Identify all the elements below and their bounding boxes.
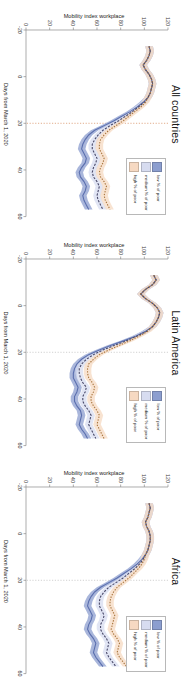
legend-swatch-high: [130, 162, 140, 172]
svg-text:0: 0: [17, 532, 23, 535]
mobility-figure: All countries -200204060020406080100120 …: [0, 0, 188, 686]
svg-text:80: 80: [118, 249, 124, 255]
legend: low % of poor medium % of poor high % of…: [126, 616, 166, 672]
svg-text:0: 0: [23, 252, 29, 255]
legend-swatch-high: [130, 391, 140, 401]
svg-text:20: 20: [47, 477, 53, 483]
svg-text:40: 40: [17, 167, 23, 173]
svg-text:20: 20: [47, 20, 53, 26]
legend-item-high: high % of poor: [130, 391, 140, 439]
rotated-figure-wrapper: All countries -200204060020406080100120 …: [0, 0, 188, 686]
x-axis-title: Days from March 1, 2020: [3, 457, 9, 686]
svg-text:60: 60: [17, 671, 23, 677]
svg-text:120: 120: [165, 474, 171, 483]
panel-africa: Africa -200204060020406080100120 Days fr…: [0, 457, 188, 686]
svg-text:60: 60: [17, 214, 23, 220]
svg-text:20: 20: [17, 577, 23, 583]
legend-swatch-medium: [141, 162, 151, 172]
legend-label-high: high % of poor: [132, 404, 136, 432]
svg-text:120: 120: [165, 246, 171, 255]
svg-text:40: 40: [70, 20, 76, 26]
svg-text:120: 120: [165, 17, 171, 26]
legend-swatch-low: [153, 162, 163, 172]
legend-item-medium: medium % of poor: [141, 162, 151, 210]
svg-text:40: 40: [17, 624, 23, 630]
svg-text:80: 80: [118, 477, 124, 483]
svg-text:-20: -20: [17, 483, 23, 491]
legend-item-low: low % of poor: [153, 620, 163, 668]
svg-text:40: 40: [70, 477, 76, 483]
legend-label-medium: medium % of poor: [144, 404, 148, 440]
y-axis-title: Mobility index workplace: [34, 470, 154, 476]
svg-text:0: 0: [23, 23, 29, 26]
legend-label-high: high % of poor: [132, 175, 136, 203]
svg-text:20: 20: [47, 249, 53, 255]
svg-text:40: 40: [17, 396, 23, 402]
y-axis-title: Mobility index workplace: [34, 13, 154, 19]
legend-item-low: low % of poor: [153, 391, 163, 439]
legend-label-low: low % of poor: [155, 404, 159, 431]
legend-swatch-medium: [141, 620, 151, 630]
legend-label-medium: medium % of poor: [144, 632, 148, 668]
y-axis-title: Mobility index workplace: [34, 242, 154, 248]
legend-item-high: high % of poor: [130, 620, 140, 668]
svg-text:-20: -20: [17, 255, 23, 263]
legend-item-high: high % of poor: [130, 162, 140, 210]
svg-text:60: 60: [94, 477, 100, 483]
legend: low % of poor medium % of poor high % of…: [126, 387, 166, 443]
legend-label-high: high % of poor: [132, 632, 136, 660]
legend-swatch-low: [153, 620, 163, 630]
x-axis-title: Days from March 1, 2020: [3, 229, 9, 458]
legend-item-low: low % of poor: [153, 162, 163, 210]
legend-swatch-medium: [141, 391, 151, 401]
panel-all-countries: All countries -200204060020406080100120 …: [0, 0, 188, 229]
legend-swatch-low: [153, 391, 163, 401]
svg-text:20: 20: [17, 349, 23, 355]
svg-text:80: 80: [118, 20, 124, 26]
svg-text:40: 40: [70, 249, 76, 255]
svg-text:60: 60: [17, 442, 23, 448]
svg-text:0: 0: [17, 304, 23, 307]
svg-text:0: 0: [23, 480, 29, 483]
legend-item-medium: medium % of poor: [141, 620, 151, 668]
svg-text:60: 60: [94, 20, 100, 26]
legend: low % of poor medium % of poor high % of…: [126, 158, 166, 214]
legend-label-low: low % of poor: [155, 632, 159, 659]
svg-text:20: 20: [17, 120, 23, 126]
panel-latin-america: Latin America -200204060020406080100120 …: [0, 229, 188, 458]
legend-label-medium: medium % of poor: [144, 175, 148, 211]
svg-text:60: 60: [94, 249, 100, 255]
x-axis-title: Days from March 1, 2020: [3, 0, 9, 229]
legend-item-medium: medium % of poor: [141, 391, 151, 439]
legend-swatch-high: [130, 620, 140, 630]
svg-text:0: 0: [17, 75, 23, 78]
legend-label-low: low % of poor: [155, 175, 159, 202]
svg-text:-20: -20: [17, 26, 23, 34]
